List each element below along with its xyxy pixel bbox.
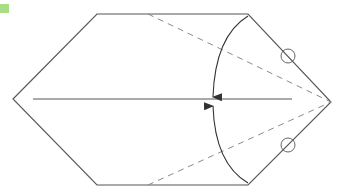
fold-diagram: [0, 0, 337, 194]
fold-arrow-icon: [213, 16, 248, 97]
reference-circles: [281, 49, 295, 152]
valley-fold-line: [148, 102, 331, 185]
valley-fold-line: [148, 14, 331, 102]
fold-arrow-icon: [213, 106, 248, 183]
